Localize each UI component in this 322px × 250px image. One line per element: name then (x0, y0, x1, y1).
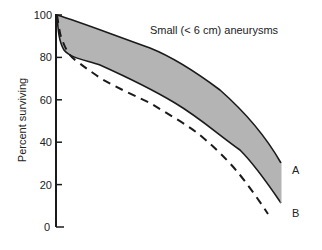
y-tick-60: 60 (40, 94, 52, 106)
y-tick-80: 80 (40, 51, 52, 63)
y-tick-0: 0 (44, 221, 50, 233)
y-tick-20: 20 (40, 179, 52, 191)
series-a-label: A (292, 164, 300, 176)
y-axis-label: Percent surviving (16, 78, 28, 162)
y-tick-40: 40 (40, 136, 52, 148)
y-tick-100: 100 (34, 9, 52, 21)
survival-chart: 100 80 60 40 20 0 Percent surviving Smal… (0, 0, 322, 250)
shaded-band (57, 15, 281, 203)
chart-title: Small (< 6 cm) aneurysms (150, 24, 279, 36)
series-b-label: B (292, 207, 299, 219)
